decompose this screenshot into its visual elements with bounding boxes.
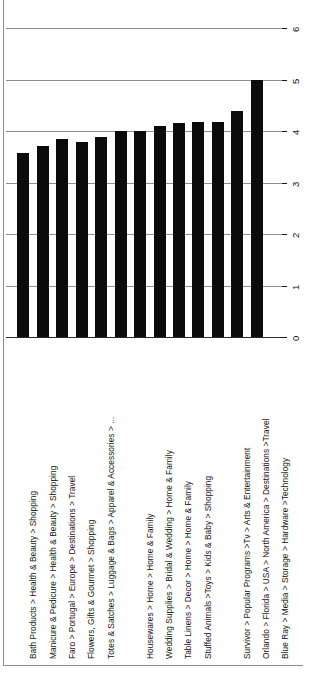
- y-tick-label: 0: [290, 336, 301, 341]
- y-tick-label: 5: [290, 78, 301, 83]
- y-tick-mark: [282, 131, 287, 132]
- y-tick-label: 3: [290, 181, 301, 186]
- y-tick-mark: [282, 28, 287, 29]
- bar: [76, 142, 88, 337]
- bar: [231, 111, 243, 337]
- category-label: Survivor > Popular Programs >Tv > Arts &…: [243, 448, 251, 659]
- y-tick-mark: [282, 337, 287, 338]
- category-label: Orlando > Florida > USA > North America …: [262, 418, 270, 659]
- bar: [95, 137, 107, 337]
- category-label: Stuffed Animals >Toys > Kids & Baby > Sh…: [204, 476, 212, 659]
- bar: [37, 146, 49, 337]
- category-label: Bath Products > Health & Beauty > Shoppi…: [29, 491, 37, 659]
- y-tick-mark: [282, 183, 287, 184]
- bar: [251, 80, 263, 338]
- x-axis-baseline: [6, 337, 282, 338]
- bar: [134, 131, 146, 337]
- y-tick-label: 1: [290, 284, 301, 289]
- plot-area: 0123456: [0, 0, 323, 345]
- gridline-6: [6, 28, 282, 29]
- bar-chart-figure: 0123456 Bath Products > Health & Beauty …: [0, 0, 323, 675]
- y-tick-mark: [282, 286, 287, 287]
- bar: [173, 123, 185, 337]
- category-label: Housewares > Home > Home & Family: [146, 513, 154, 659]
- category-label: Wedding Supplies > Bridal & Wedding > Ho…: [165, 450, 173, 659]
- figure-border-bottom: [3, 665, 303, 666]
- bar: [212, 122, 224, 337]
- bar: [192, 122, 204, 337]
- category-label: Faro > Portugal > Europe > Destinations …: [68, 476, 76, 659]
- category-label: Table Linens > Decor > Home > Home & Fam…: [184, 481, 192, 659]
- category-label: Flowers, Gifts & Gourmet > Shopping: [87, 520, 95, 659]
- y-tick-label: 2: [290, 233, 301, 238]
- y-tick-mark: [282, 234, 287, 235]
- gridline-5: [6, 80, 282, 81]
- bar: [56, 139, 68, 337]
- category-label: Totes & Satches > Luggage & Bags > Appar…: [107, 417, 115, 659]
- y-tick-mark: [282, 80, 287, 81]
- bar: [17, 153, 29, 337]
- bar: [154, 126, 166, 337]
- y-tick-label: 6: [290, 27, 301, 32]
- y-tick-label: 4: [290, 130, 301, 135]
- category-label: Manicure & Pedicure > Health & Beauty > …: [49, 466, 57, 659]
- bar: [115, 131, 127, 337]
- category-label: Blue Ray > Media > Storage > Hardware >T…: [281, 458, 289, 659]
